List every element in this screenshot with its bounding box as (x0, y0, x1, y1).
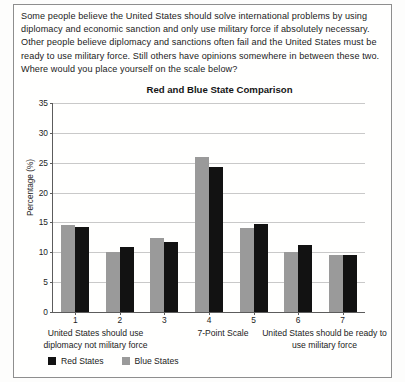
x-axis-tick-mark (120, 312, 121, 315)
bar-blue-states (329, 255, 343, 312)
x-axis-tick-mark (343, 312, 344, 315)
y-axis-tick-mark (50, 103, 53, 104)
y-axis-tick-label: 30 (39, 128, 48, 138)
x-axis-tick-label: 7 (340, 315, 345, 325)
bar-blue-states (61, 225, 75, 312)
y-axis-tick-label: 5 (43, 277, 48, 287)
bar-blue-states (106, 252, 120, 312)
y-axis-tick-label: 0 (43, 307, 48, 317)
bar-red-states (209, 167, 223, 312)
gridline (53, 103, 365, 104)
bar-group: 6 (276, 245, 321, 312)
legend-swatch-icon (122, 357, 130, 365)
x-axis-tick-mark (209, 312, 210, 315)
bar-red-states (120, 247, 134, 312)
bar-group: 3 (142, 238, 187, 312)
y-axis-tick-label: 25 (39, 158, 48, 168)
y-axis-label: Percentage (%) (26, 138, 35, 238)
scale-caption-middle: 7-Point Scale (178, 328, 268, 340)
gridline (53, 133, 365, 134)
x-axis-tick-mark (164, 312, 165, 315)
x-axis-tick-label: 3 (162, 315, 167, 325)
x-axis-tick-label: 6 (296, 315, 301, 325)
legend-item: Red States (48, 356, 104, 366)
bar-red-states (75, 227, 89, 312)
y-axis-tick-mark (50, 312, 53, 313)
y-axis-tick-mark (50, 222, 53, 223)
plot-region: 051015202530351234567 (53, 103, 365, 312)
bar-blue-states (195, 157, 209, 312)
y-axis-tick-mark (50, 193, 53, 194)
scale-caption-left: United States should use diplomacy not m… (33, 328, 158, 351)
x-axis-tick-label: 2 (118, 315, 123, 325)
bar-group: 7 (320, 255, 365, 312)
x-axis-tick-mark (75, 312, 76, 315)
chart-legend: Red StatesBlue States (48, 356, 178, 366)
y-axis-tick-label: 20 (39, 188, 48, 198)
x-axis-tick-label: 4 (207, 315, 212, 325)
legend-label: Red States (61, 356, 104, 366)
bar-blue-states (150, 238, 164, 312)
legend-label: Blue States (135, 356, 179, 366)
bar-red-states (254, 224, 268, 312)
bar-red-states (343, 255, 357, 312)
y-axis-tick-label: 15 (39, 217, 48, 227)
bar-blue-states (240, 228, 254, 312)
bar-group: 5 (231, 224, 276, 312)
y-axis-tick-mark (50, 133, 53, 134)
bar-group: 2 (98, 247, 143, 312)
bar-red-states (298, 245, 312, 312)
y-axis-tick-mark (50, 163, 53, 164)
y-axis-tick-label: 35 (39, 98, 48, 108)
chart-area: Percentage (%) 051015202530351234567 (0, 0, 405, 382)
x-axis-tick-label: 5 (251, 315, 256, 325)
chart-page: Some people believe the United States sh… (0, 0, 405, 382)
bar-group: 4 (187, 157, 232, 312)
x-axis-tick-mark (254, 312, 255, 315)
legend-item: Blue States (122, 356, 179, 366)
scale-caption-right: United States should be ready to use mil… (262, 328, 387, 351)
x-axis-tick-mark (298, 312, 299, 315)
x-axis-tick-label: 1 (73, 315, 78, 325)
legend-swatch-icon (48, 357, 56, 365)
y-axis-tick-label: 10 (39, 247, 48, 257)
bar-red-states (164, 242, 178, 312)
bar-group: 1 (53, 225, 98, 312)
bar-blue-states (284, 252, 298, 312)
